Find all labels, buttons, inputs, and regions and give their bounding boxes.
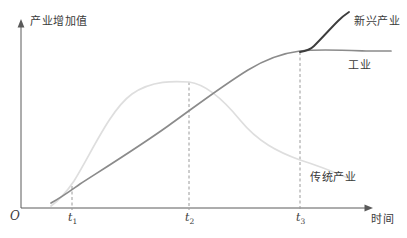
tick-label-t1-sub: 1 xyxy=(72,217,77,226)
tick-label-t2-sub: 2 xyxy=(189,217,194,226)
tick-label-t3: t3 xyxy=(296,212,305,226)
chart-canvas xyxy=(0,0,407,238)
y-axis-arrowhead xyxy=(18,19,25,28)
tick-label-t3-sub: 3 xyxy=(300,217,305,226)
series-label-industry: 工业 xyxy=(348,60,371,71)
curve-emerging-industry xyxy=(300,12,349,52)
series-label-traditional-industry: 传统产业 xyxy=(310,172,356,183)
tick-label-t2: t2 xyxy=(185,212,194,226)
curve-traditional-industry xyxy=(51,81,348,206)
origin-label: O xyxy=(10,210,20,222)
chart-container: 产业增加值 时间 O t1 t2 t3 新兴产业 工业 传统产业 xyxy=(0,0,407,238)
x-axis-arrowhead xyxy=(365,205,374,212)
x-axis-label: 时间 xyxy=(371,214,394,225)
tick-label-t1: t1 xyxy=(68,212,77,226)
series-label-emerging-industry: 新兴产业 xyxy=(354,16,400,27)
y-axis-label: 产业增加值 xyxy=(30,16,88,27)
